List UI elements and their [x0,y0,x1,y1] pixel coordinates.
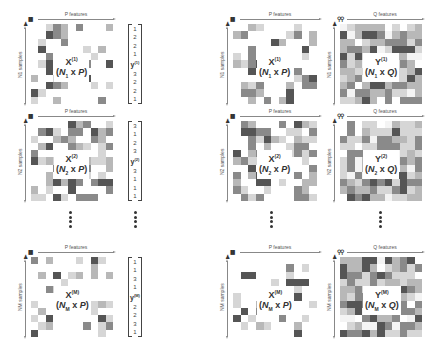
matrix-cell [68,82,75,89]
matrix-cell [385,24,392,31]
matrix-cell [68,315,75,322]
matrix-cell [377,143,384,150]
matrix-cell [400,272,407,279]
matrix-cell [377,46,384,53]
dot [134,211,137,214]
matrix-cell [377,279,384,286]
matrix-cell [355,264,362,271]
matrix-cell [362,194,369,201]
matrix-cell [83,186,90,193]
matrix-cell [400,179,407,186]
matrix-cell [385,143,392,150]
dot [379,211,382,214]
matrix-cell [233,136,241,143]
matrix-cell [61,143,68,150]
matrix-cell [294,179,302,186]
matrix-cell [340,172,347,179]
matrix-cell [400,301,407,308]
matrix-cell [241,121,249,128]
matrix-cell [407,194,414,201]
matrix-cell [309,60,317,67]
matrix-cell [91,286,98,293]
matrix-cell [61,179,68,186]
matrix-cell [233,257,241,264]
matrix-cell [309,186,317,193]
matrix-cell [233,24,241,31]
matrix-cell [68,97,75,104]
matrix-cell [106,89,113,96]
matrix-cell [38,279,45,286]
matrix-cell [377,39,384,46]
matrix-cell [233,121,241,128]
matrix-cell [61,97,68,104]
features-axis-arrow [38,252,114,253]
samples-label: N1 samples [219,52,225,78]
features-axis-arrow [347,19,423,20]
matrix-cell [355,60,362,67]
matrix-cell [83,179,90,186]
matrix-cell [233,150,241,157]
matrix-cell [46,179,53,186]
matrix-cell [248,172,256,179]
dot [69,225,72,228]
matrix-cell [38,121,45,128]
matrix-cell [76,136,83,143]
matrix-cell [241,136,249,143]
matrix-cell [31,150,38,157]
matrix-cell [355,194,362,201]
matrix-cell [340,75,347,82]
matrix-cell [347,82,354,89]
matrix-cell [415,60,422,67]
matrix-cell [106,286,113,293]
matrix-cell [61,315,68,322]
matrix-cell [106,128,113,135]
matrix-cell [309,157,317,164]
matrix-cell [98,315,105,322]
bars-icon: ▮▮ [230,248,234,255]
matrix-cell [309,150,317,157]
matrix-cell [286,315,294,322]
matrix-cell [370,121,377,128]
matrix-cell [302,179,310,186]
matrix-cell [241,24,249,31]
matrix-cell [407,165,414,172]
matrix-cell [279,121,287,128]
matrix-cell [400,89,407,96]
matrix-cell [38,322,45,329]
matrix-cell [233,157,241,164]
matrix-cell [392,194,399,201]
matrix-cell [415,68,422,75]
matrix-cell [294,272,302,279]
matrix-cell [347,264,354,271]
matrix-cell [309,308,317,315]
matrix-cell [256,143,264,150]
matrix-cell [76,322,83,329]
matrix-cell [241,272,249,279]
y-vector: 1131y(M)2231 [128,257,142,337]
vector-label: y(1) [131,60,140,68]
matrix-cell [370,46,377,53]
matrix-cell [38,68,45,75]
matrix-cell [38,179,45,186]
matrix-cell [407,179,414,186]
matrix-cell [106,315,113,322]
matrix-cell [362,24,369,31]
matrix-cell [38,330,45,337]
matrix-cell [279,194,287,201]
matrix-cell [76,272,83,279]
matrix-cell [309,121,317,128]
y-vector: 1221y(1)3221 [128,24,142,104]
matrix-cell [83,136,90,143]
matrix-cell [46,264,53,271]
matrix-cell [256,322,264,329]
matrix-cell [76,264,83,271]
vector-values: 1221y(1)3221 [128,26,142,102]
vector-value: 3 [133,123,136,129]
matrix-cell [256,82,264,89]
matrix-cell [385,272,392,279]
matrix-cell [347,31,354,38]
matrix-cell [106,165,113,172]
matrix-cell [400,31,407,38]
matrix-cell [415,179,422,186]
matrix-cell [400,150,407,157]
